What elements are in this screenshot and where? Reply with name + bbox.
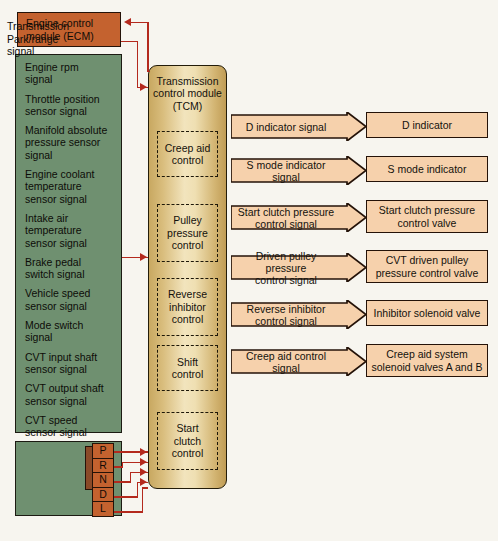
arrowhead-gear-d	[140, 478, 147, 486]
tcm-sub-control: Shiftcontrol	[157, 345, 218, 391]
arrowhead-sensors-to-tcm	[140, 253, 147, 261]
output-signal-arrow: D indicator signal	[231, 112, 367, 141]
gear-position-n[interactable]: N	[92, 472, 114, 488]
arrowhead-gear-r	[140, 458, 147, 466]
arrowhead-gear-n	[140, 468, 147, 476]
tcm-title: Transmissioncontrol module(TCM)	[149, 75, 226, 112]
gear-position-d[interactable]: D	[92, 487, 114, 503]
output-component-box: S mode indicator	[366, 156, 488, 182]
sensor-input-item: CVT speedsensor signal	[25, 414, 117, 439]
output-component-box: D indicator	[366, 112, 488, 138]
wire-ecm-out-v	[137, 41, 139, 88]
output-signal-arrow: Creep aid control signal	[231, 347, 367, 376]
sensor-inputs-box: Engine rpmsignalThrottle positionsensor …	[15, 54, 122, 433]
output-signal-label: D indicator signal	[231, 112, 341, 141]
output-signal-label: Reverse inhibitorcontrol signal	[231, 300, 341, 329]
cvt-control-block-diagram: Engine control module (ECM) Engine rpmsi…	[0, 0, 498, 541]
output-component-box: CVT driven pulleypressure control valve	[366, 250, 488, 283]
output-signal-label: Start clutch pressurecontrol signal	[231, 203, 341, 232]
wire-tcm-to-ecm-join	[147, 71, 150, 73]
wire-gear-d-v	[137, 482, 139, 497]
wire-tcm-to-ecm-h	[131, 22, 149, 24]
gear-position-l[interactable]: L	[92, 501, 114, 517]
gear-position-p[interactable]: P	[92, 443, 114, 459]
wire-gear-l-h1	[114, 511, 143, 513]
output-signal-label: Creep aid control signal	[231, 347, 341, 376]
sensor-input-item: Mode switchsignal	[25, 319, 117, 344]
output-signal-arrow: S mode indicator signal	[231, 156, 367, 185]
wire-ecm-out-h	[121, 41, 138, 43]
arrowhead-into-ecm	[124, 18, 131, 26]
sensor-input-item: CVT input shaftsensor signal	[25, 351, 117, 376]
sensor-input-item: Engine coolanttemperaturesensor signal	[25, 168, 117, 205]
sensor-input-item: Intake airtemperaturesensor signal	[25, 212, 117, 249]
output-signal-arrow: Reverse inhibitorcontrol signal	[231, 300, 367, 329]
arrowhead-ecm-to-tcm	[140, 83, 147, 91]
tcm-sub-control: Pulleypressurecontrol	[157, 204, 218, 262]
wire-gear-l-v	[142, 487, 144, 511]
sensor-input-item: Throttle positionsensor signal	[25, 93, 117, 118]
output-signal-arrow: Driven pulley pressurecontrol signal	[231, 253, 367, 282]
park-range-label: TransmissionPark/rangesignal	[7, 20, 87, 58]
output-signal-arrow: Start clutch pressurecontrol signal	[231, 203, 367, 232]
output-signal-label: S mode indicator signal	[231, 156, 341, 185]
wire-tcm-to-ecm-v	[147, 22, 149, 72]
sensor-input-item: Manifold absolutepressure sensorsignal	[25, 124, 117, 161]
tcm-sub-control: Startclutchcontrol	[157, 412, 218, 470]
output-signal-label: Driven pulley pressurecontrol signal	[231, 253, 341, 282]
output-component-box: Inhibitor solenoid valve	[366, 300, 488, 326]
wire-gear-l-h2	[142, 487, 149, 489]
wire-gear-n-h1	[114, 481, 131, 483]
arrowhead-gear-p	[140, 448, 147, 456]
tcm-sub-control: Creep aidcontrol	[157, 131, 218, 177]
gear-selector-stack: PRNDL	[92, 443, 114, 517]
output-component-box: Start clutch pressurecontrol valve	[366, 200, 488, 233]
sensor-input-item: CVT output shaftsensor signal	[25, 382, 117, 407]
sensor-input-item: Engine rpmsignal	[25, 61, 117, 86]
sensor-input-item: Brake pedalswitch signal	[25, 256, 117, 281]
output-component-box: Creep aid systemsolenoid valves A and B	[366, 344, 488, 377]
wire-gear-d-h1	[114, 496, 138, 498]
sensor-input-item: Vehicle speedsensor signal	[25, 287, 117, 312]
tcm-sub-control: Reverseinhibitorcontrol	[157, 278, 218, 336]
gear-position-r[interactable]: R	[92, 458, 114, 474]
